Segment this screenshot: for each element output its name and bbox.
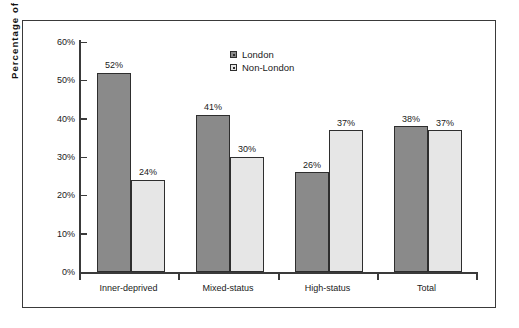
chart-legend: London Non-London: [226, 46, 298, 76]
legend-item-non-london: Non-London: [230, 61, 294, 74]
y-tick-label-50: 50%: [41, 75, 75, 85]
bar-london-high-status: [295, 172, 329, 272]
y-tick-label-40: 40%: [41, 114, 75, 124]
bar-value-nonlondon-total: 37%: [422, 118, 468, 128]
y-tick-label-0: 0%: [41, 267, 75, 277]
y-axis-title: Percentage of admissions: [9, 0, 20, 79]
legend-swatch-non-london-icon: [230, 64, 237, 71]
bar-nonlondon-total: [428, 130, 462, 272]
legend-label-london: London: [242, 49, 274, 60]
y-tick-label-30: 30%: [41, 152, 75, 162]
x-tick-start: [79, 273, 81, 280]
bar-nonlondon-mixed-status: [230, 157, 264, 272]
bar-value-nonlondon-inner-deprived: 24%: [125, 167, 171, 177]
x-tick-end: [476, 273, 478, 280]
x-tick-sep-3: [377, 273, 379, 280]
x-category-label-mixed-status: Mixed-status: [178, 283, 278, 293]
x-category-label-total: Total: [377, 283, 476, 293]
legend-item-london: London: [230, 48, 294, 61]
y-tick-label-20: 20%: [41, 190, 75, 200]
bar-nonlondon-inner-deprived: [131, 180, 165, 272]
legend-label-non-london: Non-London: [242, 62, 294, 73]
bar-london-mixed-status: [196, 115, 230, 272]
legend-swatch-london-icon: [230, 51, 237, 58]
bar-value-london-mixed-status: 41%: [190, 102, 236, 112]
x-category-label-high-status: High-status: [278, 283, 377, 293]
x-category-label-inner-deprived: Inner-deprived: [79, 283, 178, 293]
x-tick-sep-1: [178, 273, 180, 280]
bar-nonlondon-high-status: [329, 130, 363, 272]
y-tick-label-60: 60%: [41, 37, 75, 47]
bar-value-london-high-status: 26%: [289, 160, 335, 170]
y-tick-label-10: 10%: [41, 229, 75, 239]
bar-value-london-inner-deprived: 52%: [91, 60, 137, 70]
bar-value-nonlondon-mixed-status: 30%: [224, 144, 270, 154]
x-tick-sep-2: [278, 273, 280, 280]
bar-london-total: [394, 126, 428, 272]
bar-value-nonlondon-high-status: 37%: [323, 118, 369, 128]
figure-frame: Percentage of admissions 0% 10% 20% 30% …: [22, 20, 496, 308]
plot-area: 52% 24% 41% 30% 26% 37% 38% 37%: [80, 42, 477, 272]
